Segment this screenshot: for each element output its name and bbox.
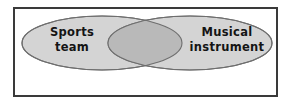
- venn-diagram-page: Sports team Musical instrument: [0, 0, 292, 105]
- venn-label-right: Musical instrument: [183, 25, 271, 55]
- venn-label-left-line1: Sports: [38, 25, 106, 40]
- venn-label-right-line1: Musical: [183, 25, 271, 40]
- venn-label-right-line2: instrument: [183, 40, 271, 55]
- venn-label-left-line2: team: [38, 40, 106, 55]
- venn-label-left: Sports team: [38, 25, 106, 55]
